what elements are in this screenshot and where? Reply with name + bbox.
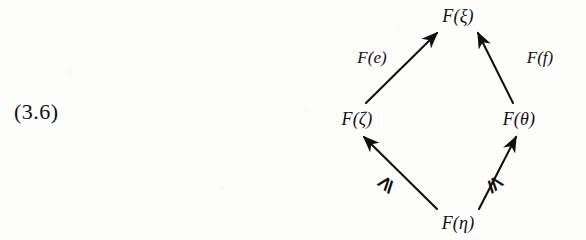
- node-f-theta: F(θ): [503, 109, 536, 130]
- edge-label-f-e: F(e): [357, 48, 386, 68]
- node-f-xi: F(ξ): [442, 6, 474, 27]
- edge-label-f-f: F(f): [527, 48, 553, 68]
- diagram-arrows: [0, 0, 586, 240]
- arrow-right-to-top: [478, 33, 513, 103]
- arrow-bottom-to-left: [364, 137, 437, 209]
- arrow-left-to-top: [366, 33, 437, 103]
- node-f-eta: F(η): [442, 213, 475, 234]
- node-f-zeta: F(ζ): [341, 109, 372, 130]
- diagram-page: (3.6) F(ξ) F(ζ) F(θ) F(η) F(e) F(f) ⩾ ⩽: [0, 0, 586, 240]
